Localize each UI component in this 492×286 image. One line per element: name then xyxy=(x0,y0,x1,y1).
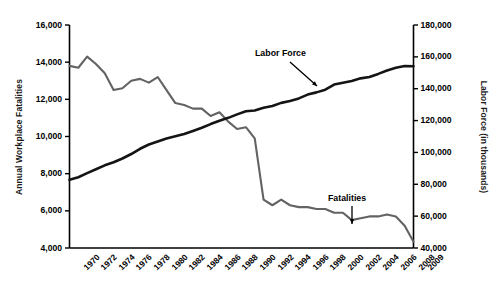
labor-force-arrow xyxy=(290,62,317,86)
series-line-fatalities xyxy=(70,57,414,242)
annotation-arrows xyxy=(290,62,354,224)
axes-group xyxy=(65,25,418,248)
series-group xyxy=(70,57,414,242)
fatalities-arrow-head xyxy=(350,219,354,224)
plot-area xyxy=(0,0,492,286)
dual-axis-line-chart: Annual Workplace Fatalities Labor Force … xyxy=(0,0,492,286)
series-line-labor-force xyxy=(70,66,414,180)
